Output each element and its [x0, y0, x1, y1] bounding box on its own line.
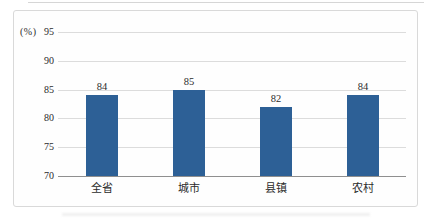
y-tick-label-80: 80 — [14, 112, 54, 124]
x-axis-label-3: 农村 — [323, 182, 403, 195]
y-tick-label-95: 95 — [14, 26, 54, 38]
x-axis-label-1: 城市 — [149, 182, 229, 195]
x-axis-label-2: 县镇 — [236, 182, 316, 195]
gridline-90 — [58, 61, 406, 62]
plot-area: 84858284 — [58, 32, 406, 176]
bar-value-label-0: 84 — [72, 80, 132, 93]
bar-0 — [86, 95, 118, 176]
bar-value-label-1: 85 — [159, 75, 219, 88]
bar-2 — [260, 107, 292, 176]
x-axis-baseline — [58, 176, 406, 177]
y-tick-label-75: 75 — [14, 141, 54, 153]
y-tick-label-85: 85 — [14, 84, 54, 96]
scan-artifact-top-line — [28, 2, 424, 3]
y-tick-label-70: 70 — [14, 170, 54, 182]
bar-value-label-3: 84 — [333, 80, 393, 93]
x-axis-label-0: 全省 — [62, 182, 142, 195]
bar-3 — [347, 95, 379, 176]
gridline-95 — [58, 32, 406, 33]
bar-chart-frame: (%) 84858284 707580859095全省城市县镇农村 — [13, 10, 418, 207]
scan-artifact-bottom-smudge — [62, 213, 370, 216]
y-tick-label-90: 90 — [14, 55, 54, 67]
bar-value-label-2: 82 — [246, 92, 306, 105]
bar-1 — [173, 90, 205, 176]
